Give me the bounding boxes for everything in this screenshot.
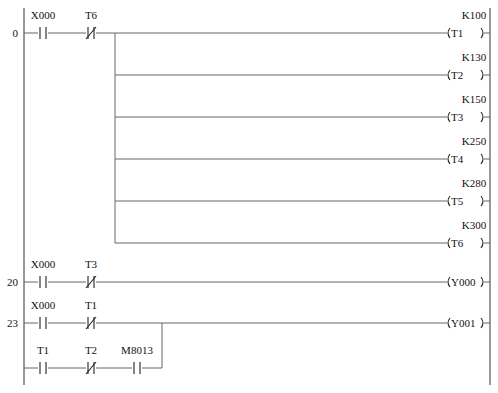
coil-t1[interactable]: T1K100 <box>448 9 490 39</box>
coil-name: T5 <box>451 195 464 207</box>
coil-t2[interactable]: T2K130 <box>448 51 490 81</box>
coil-preset: K130 <box>462 51 487 63</box>
no-contact-m8013[interactable]: M8013 <box>121 344 153 374</box>
coil-name: T4 <box>451 153 464 165</box>
no-contact-x000[interactable]: X000 <box>31 258 56 288</box>
ladder-diagram: 0X000T6T1K100T2K130T3K150T4K250T5K280T6K… <box>0 0 498 393</box>
coil-t3[interactable]: T3K150 <box>448 93 490 123</box>
coil-preset: K250 <box>462 135 487 147</box>
coil-t6[interactable]: T6K300 <box>448 219 490 249</box>
nc-contact-t3[interactable]: T3 <box>85 258 98 288</box>
coil-y000[interactable]: Y000 <box>448 276 490 288</box>
contact-label: X000 <box>31 9 56 21</box>
coil-name: Y000 <box>451 276 476 288</box>
contact-label: T3 <box>85 258 98 270</box>
nc-contact-t2[interactable]: T2 <box>85 344 97 374</box>
contact-label: X000 <box>31 299 56 311</box>
contact-label: T1 <box>85 299 97 311</box>
coil-open-paren-icon <box>448 112 450 122</box>
coil-name: Y001 <box>451 317 475 329</box>
contact-label: T6 <box>85 9 98 21</box>
coil-open-paren-icon <box>448 196 450 206</box>
no-contact-t1[interactable]: T1 <box>37 344 49 374</box>
coil-close-paren-icon <box>481 28 483 38</box>
coil-preset: K280 <box>462 177 487 189</box>
contact-label: M8013 <box>121 344 153 356</box>
coil-t4[interactable]: T4K250 <box>448 135 490 165</box>
coil-open-paren-icon <box>448 70 450 80</box>
contact-label: T2 <box>85 344 97 356</box>
coil-close-paren-icon <box>481 70 483 80</box>
no-contact-x000[interactable]: X000 <box>31 299 56 329</box>
nc-contact-t6[interactable]: T6 <box>85 9 98 39</box>
coil-name: T2 <box>451 69 463 81</box>
contact-label: X000 <box>31 258 56 270</box>
coil-y001[interactable]: Y001 <box>448 317 490 329</box>
rung-23: 23T1T2M8013X000T1Y001 <box>7 299 490 374</box>
step-number: 20 <box>7 276 19 288</box>
coil-open-paren-icon <box>448 154 450 164</box>
coil-t5[interactable]: T5K280 <box>448 177 490 207</box>
coil-close-paren-icon <box>481 238 483 248</box>
coil-preset: K150 <box>462 93 487 105</box>
coil-close-paren-icon <box>481 112 483 122</box>
step-number: 0 <box>13 27 19 39</box>
nc-contact-t1[interactable]: T1 <box>85 299 97 329</box>
rung-20: 20X000T3Y000 <box>7 258 490 288</box>
coil-open-paren-icon <box>448 318 450 328</box>
coil-close-paren-icon <box>481 277 483 287</box>
rung-0: 0X000T6T1K100T2K130T3K150T4K250T5K280T6K… <box>13 9 491 249</box>
coil-close-paren-icon <box>481 154 483 164</box>
no-contact-x000[interactable]: X000 <box>31 9 56 39</box>
coil-open-paren-icon <box>448 238 450 248</box>
coil-open-paren-icon <box>448 28 450 38</box>
contact-label: T1 <box>37 344 49 356</box>
coil-name: T3 <box>451 111 464 123</box>
coil-close-paren-icon <box>481 318 483 328</box>
step-number: 23 <box>7 317 19 329</box>
coil-open-paren-icon <box>448 277 450 287</box>
coil-name: T1 <box>451 27 463 39</box>
coil-name: T6 <box>451 237 464 249</box>
coil-preset: K100 <box>462 9 487 21</box>
coil-close-paren-icon <box>481 196 483 206</box>
coil-preset: K300 <box>462 219 487 231</box>
